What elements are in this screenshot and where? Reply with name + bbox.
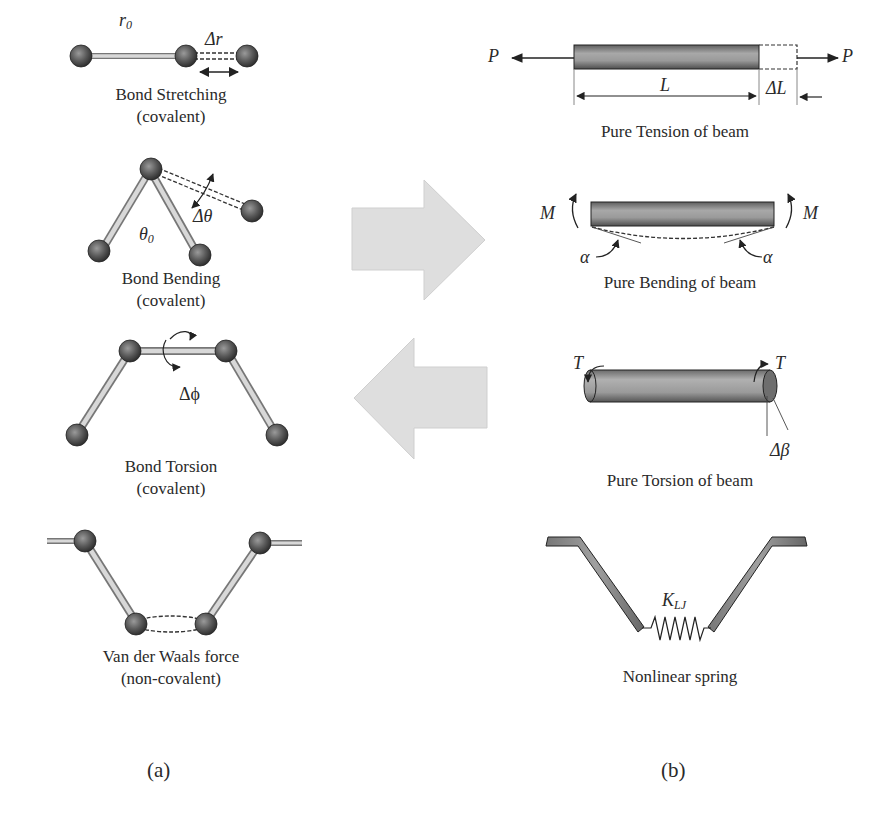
caption-line1: Bond Torsion [86,456,256,478]
panel-label-a: (a) [147,758,170,783]
symbol-subscript: 0 [126,18,132,32]
caption-line2: (covalent) [86,106,256,128]
caption-bond-stretching: Bond Stretching (covalent) [86,84,256,128]
symbol-k-lj: KLJ [662,590,686,613]
panel-label-b: (b) [661,758,686,783]
symbol-delta-beta: Δβ [770,440,790,461]
symbol-l: L [660,75,670,96]
symbol-p-left: P [488,46,499,67]
symbol-alpha-left: α [580,247,589,268]
caption-pure-bending: Pure Bending of beam [575,272,785,294]
caption-line1: Bond Stretching [86,84,256,106]
pure-bending-diagram [572,194,791,257]
nonlinear-spring-diagram [546,537,807,640]
bond-bending-diagram [88,158,263,266]
caption-bond-torsion: Bond Torsion (covalent) [86,456,256,500]
symbol-t-right: T [775,353,785,374]
symbol-delta-theta: Δθ [193,206,212,227]
symbol-alpha-right: α [763,247,772,268]
pure-tension-diagram [512,45,838,105]
bond-torsion-diagram [66,332,288,446]
symbol-r0: r0 [119,10,132,33]
symbol-theta0: θ0 [139,224,154,247]
symbol-delta-phi: Δϕ [179,384,200,405]
symbol-m-right: M [803,203,818,224]
pure-torsion-diagram [584,364,788,436]
caption-bond-bending: Bond Bending (covalent) [86,268,256,312]
symbol-subscript: 0 [148,232,154,246]
symbol-m-left: M [540,203,555,224]
caption-line2: (non-covalent) [76,668,266,690]
caption-line2: (covalent) [86,478,256,500]
left-arrow-icon [354,338,487,459]
bond-stretching-diagram [70,45,258,72]
caption-pure-tension: Pure Tension of beam [575,121,775,143]
caption-line2: (covalent) [86,290,256,312]
right-arrow-icon [352,180,485,300]
van-der-waals-diagram [47,530,302,635]
caption-pure-torsion: Pure Torsion of beam [575,470,785,492]
symbol-delta-r: Δr [205,29,223,50]
symbol-t-left: T [573,353,583,374]
symbol-p-right: P [842,46,853,67]
symbol-delta-l: ΔL [766,78,787,99]
caption-line1: Van der Waals force [76,646,266,668]
symbol-subscript: LJ [674,598,686,612]
symbol-k: K [662,590,674,610]
symbol-r: r [119,10,126,30]
caption-nonlinear-spring: Nonlinear spring [600,666,760,688]
caption-van-der-waals: Van der Waals force (non-covalent) [76,646,266,690]
symbol-theta: θ [139,224,148,244]
caption-line1: Bond Bending [86,268,256,290]
truncated-figure-caption [8,818,298,827]
